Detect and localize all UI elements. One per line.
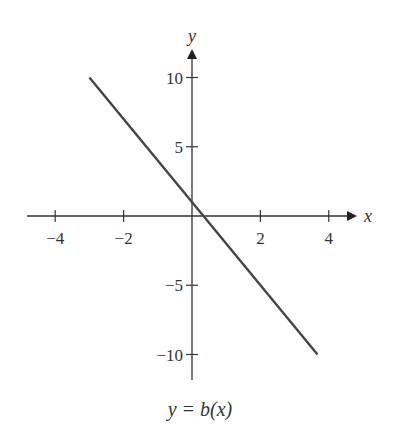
x-tick-label: −4	[46, 229, 65, 248]
graph: xy −4−224105−5−10	[0, 0, 400, 440]
y-tick-label: −10	[156, 346, 183, 365]
x-tick-label: −2	[115, 229, 133, 248]
y-tick-label: −5	[165, 276, 183, 295]
axes: xy	[27, 26, 372, 380]
y-tick-label: 5	[175, 138, 184, 157]
x-tick-label: 4	[325, 229, 334, 248]
x-axis-label: x	[363, 206, 372, 226]
y-axis-label: y	[186, 26, 196, 46]
y-tick-label: 10	[166, 69, 183, 88]
graph-caption: y = b(x)	[0, 398, 400, 421]
x-tick-label: 2	[256, 229, 265, 248]
